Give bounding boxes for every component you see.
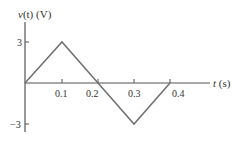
chart: v(t) (V) 3 −3 0.1 0.2 0.3 0.4 t (s) <box>0 0 241 141</box>
x-axis-label: t (s) <box>213 77 231 90</box>
y-axis-label: v(t) (V) <box>18 8 52 21</box>
xtick-label-0.1: 0.1 <box>55 88 68 99</box>
xtick-label-0.2: 0.2 <box>86 88 99 99</box>
ytick-label-3: 3 <box>17 37 22 48</box>
xtick-label-0.3: 0.3 <box>128 88 141 99</box>
xtick-label-0.4: 0.4 <box>172 88 185 99</box>
ytick-label-neg3: −3 <box>10 119 21 130</box>
